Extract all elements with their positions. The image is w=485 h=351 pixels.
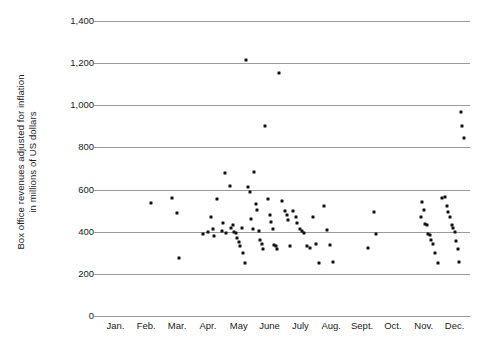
data-point xyxy=(284,209,287,212)
data-point xyxy=(243,262,246,265)
data-point xyxy=(421,201,424,204)
data-point xyxy=(250,218,253,221)
data-point xyxy=(268,213,271,216)
data-point xyxy=(240,226,243,229)
data-point xyxy=(436,262,439,265)
data-point xyxy=(285,213,288,216)
data-point xyxy=(456,247,459,250)
data-point xyxy=(287,219,290,222)
data-point xyxy=(251,227,254,230)
data-point xyxy=(177,257,180,260)
data-point xyxy=(259,239,262,242)
data-point xyxy=(257,229,260,232)
data-point xyxy=(367,246,370,249)
data-point xyxy=(149,202,152,205)
data-point xyxy=(447,210,450,213)
data-point xyxy=(433,251,436,254)
data-point xyxy=(459,110,462,113)
data-point xyxy=(308,246,311,249)
data-point xyxy=(428,233,431,236)
data-point xyxy=(430,239,433,242)
data-point xyxy=(373,210,376,213)
data-point xyxy=(210,215,213,218)
data-point xyxy=(176,211,179,214)
data-point xyxy=(237,241,240,244)
data-point xyxy=(311,215,314,218)
data-point xyxy=(328,244,331,247)
data-point xyxy=(256,208,259,211)
x-axis-tick-label: Dec. xyxy=(435,320,475,331)
data-point xyxy=(422,208,425,211)
data-point xyxy=(220,229,223,232)
data-point xyxy=(445,205,448,208)
data-point xyxy=(455,240,458,243)
data-point xyxy=(239,245,242,248)
gridline xyxy=(100,147,470,148)
data-point xyxy=(325,228,328,231)
data-point xyxy=(254,203,257,206)
gridline xyxy=(100,274,470,275)
data-point xyxy=(228,185,231,188)
gridline xyxy=(100,316,470,317)
data-point xyxy=(453,230,456,233)
data-point xyxy=(452,226,455,229)
data-point xyxy=(444,195,447,198)
data-point xyxy=(202,232,205,235)
data-point xyxy=(206,230,209,233)
data-point xyxy=(242,251,245,254)
data-point xyxy=(462,136,465,139)
data-point xyxy=(231,224,234,227)
data-point xyxy=(317,262,320,265)
data-point xyxy=(270,221,273,224)
data-point xyxy=(276,247,279,250)
data-point xyxy=(247,186,250,189)
data-point xyxy=(432,243,435,246)
data-point xyxy=(260,243,263,246)
data-point xyxy=(253,170,256,173)
data-point xyxy=(294,215,297,218)
data-point xyxy=(248,190,251,193)
data-point xyxy=(245,58,248,61)
data-point xyxy=(425,224,428,227)
data-point xyxy=(461,125,464,128)
data-point xyxy=(322,205,325,208)
data-point xyxy=(374,232,377,235)
data-point xyxy=(211,227,214,230)
data-point xyxy=(291,209,294,212)
data-point xyxy=(288,245,291,248)
data-point xyxy=(296,222,299,225)
y-axis-tick-marks xyxy=(0,21,100,316)
data-point xyxy=(448,215,451,218)
data-point xyxy=(271,227,274,230)
data-point xyxy=(458,261,461,264)
gridline xyxy=(100,190,470,191)
data-point xyxy=(222,222,225,225)
data-point xyxy=(331,261,334,264)
data-point xyxy=(225,231,228,234)
data-point xyxy=(171,197,174,200)
data-point xyxy=(302,231,305,234)
gridline xyxy=(100,63,470,64)
data-point xyxy=(236,237,239,240)
data-point xyxy=(280,200,283,203)
data-point xyxy=(262,247,265,250)
data-point xyxy=(213,234,216,237)
x-axis-tick-labels: Jan.Feb.Mar.Apr.MayJuneJulyAug.Sept.Oct.… xyxy=(100,320,470,338)
data-point xyxy=(234,231,237,234)
gridline xyxy=(100,232,470,233)
gridline xyxy=(100,21,470,22)
data-point xyxy=(314,243,317,246)
data-point xyxy=(419,215,422,218)
data-point xyxy=(223,171,226,174)
data-point xyxy=(263,125,266,128)
plot-area xyxy=(100,21,470,316)
gridline xyxy=(100,105,470,106)
scatter-chart: Box office revenues adjusted for inflati… xyxy=(0,0,485,351)
data-point xyxy=(267,198,270,201)
data-point xyxy=(277,71,280,74)
data-point xyxy=(216,198,219,201)
